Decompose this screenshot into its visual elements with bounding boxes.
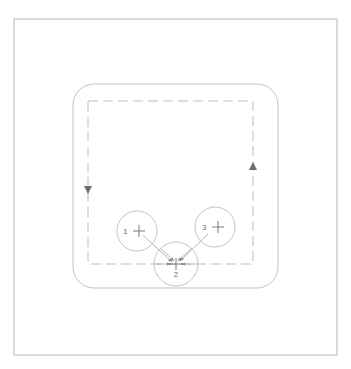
diagram-canvas: 132 [0, 0, 351, 369]
leader-line-upleft-to-2 [160, 248, 174, 261]
callout-1[interactable]: 1 [117, 211, 157, 251]
callouts-group: 132 [117, 207, 235, 286]
leader-line-upright-to-2 [178, 248, 192, 261]
callout-label-3: 3 [202, 223, 207, 232]
diagram-root: 132 [0, 0, 351, 369]
callout-3[interactable]: 3 [195, 207, 235, 247]
left-edge-arrow-down [84, 186, 92, 194]
callout-label-2: 2 [174, 270, 179, 279]
direction-arrows-group [84, 162, 257, 194]
outer-frame [14, 19, 337, 355]
right-edge-arrow-up [249, 162, 257, 170]
dashed-boundary [88, 101, 253, 264]
callout-label-1: 1 [123, 227, 128, 236]
leader-line-3-to-2 [180, 234, 208, 261]
rounded-panel [73, 84, 278, 288]
